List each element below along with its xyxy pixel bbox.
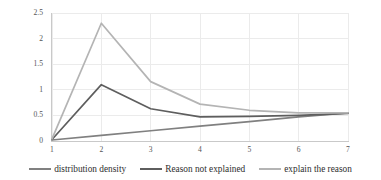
- legend-swatch-icon: [140, 168, 162, 170]
- x-axis-tick-label: 7: [341, 145, 355, 154]
- chart-legend: distribution density Reason not explaine…: [0, 161, 381, 177]
- x-axis-tick-label: 1: [45, 145, 59, 154]
- x-axis-tick-label: 4: [193, 145, 207, 154]
- x-axis: 1 2 3 4 5 6 7: [0, 145, 381, 157]
- x-axis-tick-label: 6: [292, 145, 306, 154]
- y-axis-tick-label: 0: [39, 137, 43, 145]
- line-chart: 2.5 2 1.5 1 0.5 0: [0, 0, 381, 180]
- legend-item-distribution-density[interactable]: distribution density: [29, 164, 126, 175]
- y-axis-tick-label: 1.5: [34, 60, 44, 68]
- series-lines: [52, 13, 348, 141]
- legend-label: explain the reason: [284, 164, 352, 175]
- legend-label: distribution density: [54, 164, 126, 175]
- y-axis-tick-label: 2: [39, 35, 43, 43]
- y-axis: 2.5 2 1.5 1 0.5 0: [0, 0, 48, 160]
- x-axis-tick-label: 5: [242, 145, 256, 154]
- legend-item-reason-not-explained[interactable]: Reason not explained: [140, 164, 245, 175]
- series-line-explain-the-reason: [52, 23, 348, 139]
- legend-swatch-icon: [259, 168, 281, 170]
- x-axis-tick-label: 3: [144, 145, 158, 154]
- legend-swatch-icon: [29, 168, 51, 170]
- y-axis-tick-label: 1: [39, 86, 43, 94]
- legend-label: Reason not explained: [165, 164, 245, 175]
- y-axis-tick-label: 2.5: [34, 9, 44, 17]
- x-axis-tick-label: 2: [94, 145, 108, 154]
- legend-item-explain-the-reason[interactable]: explain the reason: [259, 164, 352, 175]
- x-axis-line: [52, 141, 349, 142]
- plot-area: [52, 13, 348, 141]
- y-axis-tick-label: 0.5: [34, 111, 44, 119]
